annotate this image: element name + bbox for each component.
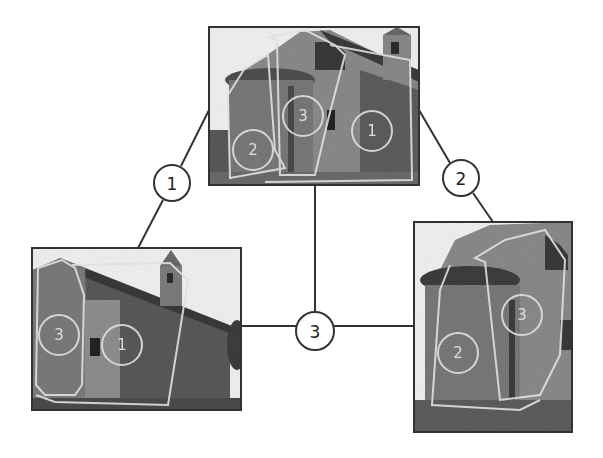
node-1-label: 1 xyxy=(167,174,178,194)
region-label-3-top: 3 xyxy=(298,107,308,125)
region-label-2-top: 2 xyxy=(248,141,258,159)
node-3: 3 xyxy=(296,312,334,350)
connector-node-1-to-left xyxy=(138,200,163,248)
region-label-3-right: 3 xyxy=(517,306,527,324)
node-2: 2 xyxy=(443,160,479,196)
node-2-label: 2 xyxy=(456,169,467,189)
region-label-3-left: 3 xyxy=(54,326,64,344)
photo-overlap-diagram: 3 2 1 xyxy=(0,0,603,458)
region-label-1-top: 1 xyxy=(367,122,377,140)
photo-right: 2 3 xyxy=(414,222,572,432)
node-1: 1 xyxy=(154,165,190,201)
connector-top-to-node-1 xyxy=(181,110,209,166)
photo-left: 3 1 xyxy=(32,248,247,410)
region-label-2-right: 2 xyxy=(453,344,463,362)
photo-top: 3 2 1 xyxy=(209,27,419,185)
region-label-1-left: 1 xyxy=(117,336,127,354)
connector-node-2-to-right xyxy=(473,193,493,222)
node-3-label: 3 xyxy=(310,322,321,342)
connector-top-to-node-2 xyxy=(419,110,450,163)
